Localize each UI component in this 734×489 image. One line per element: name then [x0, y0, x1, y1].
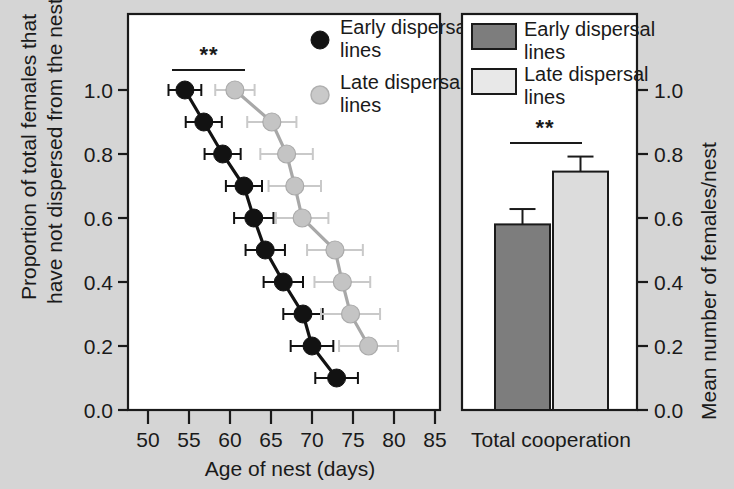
data-point	[256, 241, 274, 259]
ytick-label-0.8: 0.8	[84, 143, 113, 166]
data-point	[214, 145, 232, 163]
figure-container: 1.0 0.8 0.6 0.4 0.2 0.0 Proportion of to…	[0, 0, 734, 489]
data-point	[226, 81, 244, 99]
data-point	[235, 177, 253, 195]
right-ytick-label-0.0: 0.0	[654, 399, 683, 422]
left-legend-label-early-1: Early dispersal	[340, 16, 471, 38]
right-legend-label-late-2: lines	[524, 86, 565, 108]
data-point	[342, 305, 360, 323]
bar	[553, 172, 608, 410]
left-legend-label-late-2: lines	[340, 94, 381, 116]
right-ytick-label-1.0: 1.0	[654, 79, 683, 102]
left-legend-label-early-2: lines	[340, 39, 381, 61]
ytick-label-0.0: 0.0	[84, 399, 113, 422]
ytick-label-0.4: 0.4	[84, 271, 114, 294]
ytick-label-0.6: 0.6	[84, 207, 113, 230]
data-point	[176, 81, 194, 99]
right-xlabel: Total cooperation	[471, 428, 631, 451]
data-point	[326, 241, 344, 259]
data-point	[303, 337, 321, 355]
right-legend-label-early-2: lines	[524, 41, 565, 63]
xtick-label-65: 65	[259, 428, 282, 451]
data-point	[293, 209, 311, 227]
right-ytick-label-0.4: 0.4	[654, 271, 684, 294]
data-point	[263, 113, 281, 131]
data-point	[333, 273, 351, 291]
right-legend-label-late-1: Late dispersal	[524, 63, 649, 85]
left-ylabel-line1: Proportion of total females that	[17, 14, 40, 300]
left-significance-stars: **	[199, 42, 218, 67]
xtick-label-80: 80	[382, 428, 405, 451]
legend-swatch-light-icon	[472, 69, 516, 94]
xtick-label-60: 60	[218, 428, 241, 451]
data-point	[328, 369, 346, 387]
xtick-label-50: 50	[136, 428, 159, 451]
xtick-label-70: 70	[300, 428, 323, 451]
left-xlabel: Age of nest (days)	[205, 457, 375, 480]
data-point	[360, 337, 378, 355]
data-point	[278, 145, 296, 163]
right-ytick-label-0.2: 0.2	[654, 335, 683, 358]
legend-marker-filled-circle-icon	[311, 31, 329, 49]
right-legend-label-early-1: Early dispersal	[524, 18, 655, 40]
data-point	[294, 305, 312, 323]
xtick-label-85: 85	[423, 428, 446, 451]
data-point	[245, 209, 263, 227]
ytick-label-0.2: 0.2	[84, 335, 113, 358]
right-ylabel: Mean number of females/nest	[697, 142, 720, 420]
data-point	[274, 273, 292, 291]
xtick-label-55: 55	[177, 428, 200, 451]
left-legend-label-late-1: Late dispersal	[340, 71, 465, 93]
right-ytick-label-0.6: 0.6	[654, 207, 683, 230]
data-point	[195, 113, 213, 131]
bar-group-0	[495, 209, 550, 410]
bar-group-1	[553, 157, 608, 410]
data-point	[286, 177, 304, 195]
bar	[495, 224, 550, 410]
left-ylabel-line2: have not dispersed from the nest	[43, 0, 66, 304]
legend-marker-open-circle-icon	[311, 86, 329, 104]
legend-swatch-dark-icon	[472, 24, 516, 49]
right-significance-stars: **	[535, 115, 554, 140]
ytick-label-1.0: 1.0	[84, 79, 113, 102]
xtick-label-75: 75	[341, 428, 364, 451]
right-ytick-label-0.8: 0.8	[654, 143, 683, 166]
